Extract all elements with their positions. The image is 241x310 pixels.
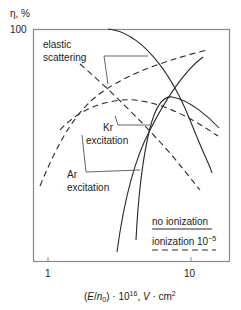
callout-elastic	[104, 56, 148, 84]
legend: no ionization ionization 10−5	[152, 216, 216, 250]
label-elastic-1: elastic	[43, 39, 71, 50]
legend-dashed-label: ionization 10−5	[152, 235, 216, 247]
x-axis-label: (E/n0) · 1016, V · cm2	[84, 290, 176, 303]
label-kr-2: excitation	[86, 135, 128, 146]
y-axis-label: η, %	[10, 8, 30, 19]
chart: η, % 100 1 10 (E/n0) · 1016, V · cm2 ela…	[0, 0, 241, 310]
x-tick-10: 10	[184, 268, 196, 279]
curve-ar-dashed	[40, 50, 207, 186]
callout-kr	[115, 116, 150, 125]
label-elastic-2: scattering	[43, 52, 86, 63]
y-tick-100: 100	[10, 24, 27, 35]
label-ar-1: Ar	[67, 169, 78, 180]
label-ar-2: excitation	[67, 182, 109, 193]
label-kr-1: Kr	[103, 122, 114, 133]
curve-elastic-dashed	[80, 64, 200, 190]
x-tick-1: 1	[45, 268, 51, 279]
curve-elastic-solid	[108, 29, 212, 173]
legend-solid-label: no ionization	[152, 216, 208, 227]
